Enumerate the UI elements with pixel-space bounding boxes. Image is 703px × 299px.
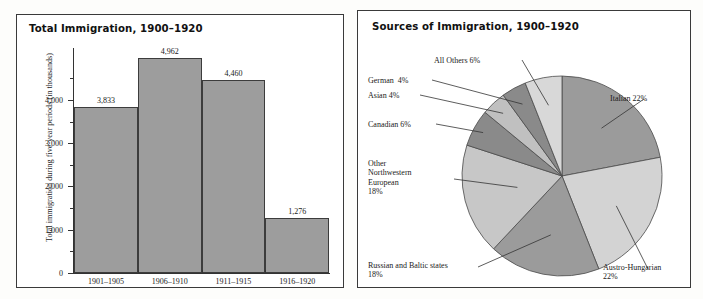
pie-label-other-northwestern-european: Other Northwestern European 18% — [368, 159, 412, 197]
y-tick-label: 3,000 — [45, 139, 63, 148]
x-tick-label: 1916–1920 — [265, 277, 329, 286]
x-tick-label: 1906–1910 — [138, 277, 202, 286]
x-tick-mark — [265, 270, 266, 274]
bar-value-label: 3,833 — [74, 96, 138, 105]
leader-line — [420, 95, 503, 113]
bar-1911-1915 — [202, 80, 266, 273]
pie-slice-group — [462, 76, 662, 276]
pie-label-asian: Asian 4% — [368, 91, 399, 100]
pie-label-austro-hungarian: Austro-Hungarian 22% — [603, 263, 661, 282]
x-tick-label: 1911–1915 — [202, 277, 266, 286]
y-tick-label: 4,000 — [45, 95, 63, 104]
bar-value-label: 1,276 — [265, 207, 329, 216]
y-tick-label: 1,000 — [45, 225, 63, 234]
bar-chart-plot-area: 3,8334,9624,4601,276 — [74, 48, 329, 273]
x-tick-mark — [202, 270, 203, 274]
pie-label-italian: Italian 22% — [610, 94, 647, 103]
pie-chart-graphic — [358, 11, 692, 289]
bar-value-label: 4,460 — [202, 69, 266, 78]
x-tick-label: 1901–1905 — [74, 277, 138, 286]
figure-page: Total Immigration, 1900–1920 Total immig… — [0, 0, 703, 299]
y-tick-label: 2,000 — [45, 182, 63, 191]
bar-chart-title: Total Immigration, 1900–1920 — [29, 23, 203, 34]
pie-label-russian-and-baltic-states: Russian and Baltic states 18% — [368, 261, 448, 280]
bar-value-label: 4,962 — [138, 47, 202, 56]
bar-1916-1920 — [265, 218, 329, 273]
y-tick-label: 0 — [59, 269, 63, 278]
bar-1901-1905 — [74, 107, 138, 273]
pie-label-german: German 4% — [368, 76, 408, 85]
bar-chart-panel: Total Immigration, 1900–1920 Total immig… — [16, 14, 344, 288]
pie-chart-panel: Sources of Immigration, 1900–1920 Italia… — [357, 10, 691, 288]
bar-1906-1910 — [138, 58, 202, 273]
x-tick-mark — [138, 270, 139, 274]
pie-label-canadian: Canadian 6% — [368, 120, 411, 129]
y-tick-major — [68, 273, 74, 274]
pie-label-all-others: All Others 6% — [434, 56, 480, 65]
